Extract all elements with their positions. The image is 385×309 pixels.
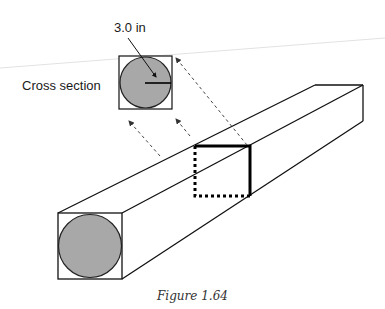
figure-caption: Figure 1.64	[156, 289, 228, 303]
dimension-label: 3.0 in	[114, 20, 146, 35]
cross-section-inset	[119, 38, 172, 109]
faint-guide-line	[0, 38, 385, 68]
dashed-arrow-long	[176, 58, 247, 145]
front-circle	[59, 215, 122, 278]
dashed-arrow-left	[129, 121, 160, 156]
cross-section-label: Cross section	[22, 78, 101, 93]
bar-diagram: 3.0 in Cross section Figure 1.64	[0, 0, 385, 309]
figure-canvas: 3.0 in Cross section Figure 1.64	[0, 0, 385, 309]
middle-section	[195, 146, 250, 196]
dashed-arrow-middle	[176, 119, 190, 136]
front-face	[58, 213, 122, 279]
